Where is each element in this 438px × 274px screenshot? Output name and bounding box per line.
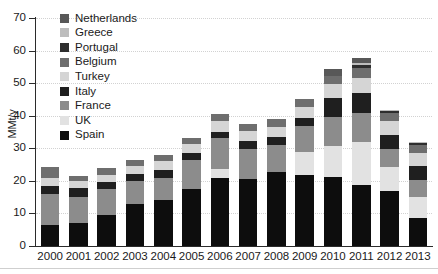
legend-item-belgium[interactable]: Belgium (60, 55, 137, 70)
x-tick-label: 2009 (291, 250, 319, 262)
legend-item-italy[interactable]: Italy (60, 84, 137, 99)
bar-segment-spain (409, 218, 428, 246)
legend-item-turkey[interactable]: Turkey (60, 69, 137, 84)
bar-segment-turkey (211, 121, 230, 132)
bar-column[interactable] (239, 124, 258, 246)
stacked-bar-chart-figure: MMt/y NetherlandsGreecePortugalBelgiumTu… (0, 0, 438, 274)
bar-segment-spain (295, 175, 314, 246)
legend-label: Turkey (75, 71, 110, 83)
legend-swatch-icon (60, 28, 69, 37)
legend-label: Greece (75, 27, 113, 39)
legend-swatch-icon (60, 101, 69, 110)
bar-column[interactable] (267, 119, 286, 246)
bar-column[interactable] (211, 114, 230, 247)
bar-segment-spain (154, 200, 173, 246)
legend-item-uk[interactable]: UK (60, 113, 137, 128)
bar-column[interactable] (69, 176, 88, 246)
bar-segment-italy (324, 98, 343, 116)
x-tick-label: 2004 (149, 250, 177, 262)
bar-segment-france (126, 181, 145, 204)
bar-segment-italy (97, 182, 116, 189)
bar-segment-turkey (239, 131, 258, 141)
y-tick-mark (29, 83, 36, 84)
legend-label: Portugal (75, 42, 118, 54)
bar-segment-italy (267, 137, 286, 145)
bar-column[interactable] (182, 138, 201, 246)
bar-segment-italy (41, 186, 60, 194)
bar-segment-belgium (324, 76, 343, 84)
bar-segment-france (409, 180, 428, 198)
bar-column[interactable] (352, 58, 371, 246)
legend-item-netherlands[interactable]: Netherlands (60, 11, 137, 26)
bar-segment-turkey (154, 161, 173, 170)
bar-segment-spain (69, 223, 88, 246)
bar-segment-spain (211, 178, 230, 246)
y-tick-mark (29, 213, 36, 214)
bar-segment-spain (97, 215, 116, 246)
bar-column[interactable] (97, 168, 116, 246)
legend-swatch-icon (60, 72, 69, 81)
bar-segment-france (295, 126, 314, 153)
y-tick-mark (29, 116, 36, 117)
bar-segment-italy (380, 135, 399, 149)
bar-segment-belgium (182, 138, 201, 145)
bar-segment-uk (324, 146, 343, 177)
legend-item-spain[interactable]: Spain (60, 128, 137, 143)
bar-segment-france (352, 113, 371, 142)
bar-column[interactable] (380, 110, 399, 246)
y-tick-label: 10 (0, 206, 26, 218)
bar-segment-belgium (380, 113, 399, 121)
bar-segment-turkey (69, 181, 88, 188)
y-tick-mark (29, 246, 36, 247)
y-tick-mark (29, 148, 36, 149)
legend-label: Netherlands (75, 13, 137, 25)
bar-segment-belgium (211, 114, 230, 121)
footer-rule (0, 268, 438, 269)
bar-segment-france (239, 149, 258, 178)
bar-segment-belgium (267, 119, 286, 127)
legend-swatch-icon (60, 116, 69, 125)
bar-segment-turkey (267, 127, 286, 137)
bar-segment-uk (295, 152, 314, 175)
bar-column[interactable] (126, 160, 145, 246)
bar-segment-uk (352, 142, 371, 185)
y-tick-label: 30 (0, 141, 26, 153)
bar-column[interactable] (324, 69, 343, 246)
x-tick-label: 2013 (404, 250, 432, 262)
bar-segment-france (154, 178, 173, 201)
bar-column[interactable] (154, 155, 173, 246)
bar-segment-spain (324, 177, 343, 246)
x-tick-label: 2012 (375, 250, 403, 262)
legend-item-greece[interactable]: Greece (60, 26, 137, 41)
bar-segment-turkey (324, 84, 343, 98)
x-tick-label: 2006 (206, 250, 234, 262)
x-tick-label: 2005 (177, 250, 205, 262)
x-tick-label: 2003 (121, 250, 149, 262)
bar-segment-spain (380, 191, 399, 246)
bar-segment-turkey (126, 166, 145, 174)
bar-segment-uk (211, 169, 230, 178)
y-tick-label: 70 (0, 11, 26, 23)
legend-swatch-icon (60, 43, 69, 52)
legend-label: UK (75, 115, 91, 127)
legend-item-portugal[interactable]: Portugal (60, 40, 137, 55)
bar-segment-turkey (97, 175, 116, 182)
bar-segment-spain (267, 172, 286, 246)
x-tick-label: 2002 (93, 250, 121, 262)
bar-column[interactable] (295, 99, 314, 246)
bar-segment-belgium (352, 68, 371, 78)
bar-segment-france (182, 160, 201, 188)
y-tick-label: 20 (0, 174, 26, 186)
legend-swatch-icon (60, 87, 69, 96)
bar-segment-italy (409, 166, 428, 180)
bar-segment-spain (41, 225, 60, 246)
bar-segment-turkey (295, 107, 314, 117)
legend-item-france[interactable]: France (60, 99, 137, 114)
chart-legend: NetherlandsGreecePortugalBelgiumTurkeyIt… (60, 11, 137, 142)
bar-segment-italy (69, 188, 88, 198)
bar-column[interactable] (41, 167, 60, 246)
x-tick-label: 2010 (319, 250, 347, 262)
bar-column[interactable] (409, 142, 428, 246)
bar-segment-spain (239, 179, 258, 246)
bar-segment-france (267, 145, 286, 173)
